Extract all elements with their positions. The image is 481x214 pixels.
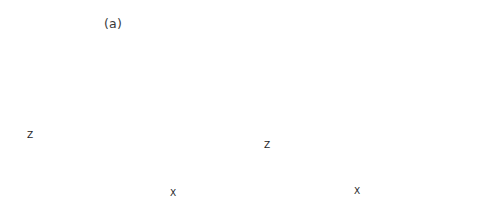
figure-root: (a) Z X (b) Z X <box>0 0 481 214</box>
panel-a-surface <box>0 0 245 214</box>
panel-a-xlabel: X <box>170 188 176 198</box>
panel-b-zlabel: Z <box>264 140 270 150</box>
panel-b-xlabel: X <box>354 186 360 196</box>
panel-a: (a) Z X <box>0 0 245 214</box>
panel-b: (b) Z X <box>236 0 481 214</box>
panel-b-surface <box>236 0 481 214</box>
panel-a-zlabel: Z <box>27 130 33 140</box>
